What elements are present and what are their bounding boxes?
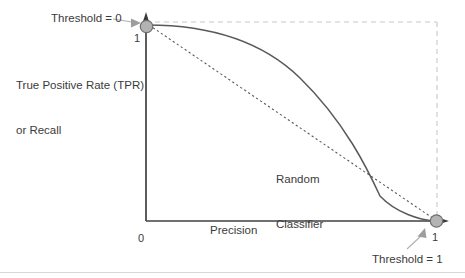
threshold-zero-marker[interactable] (140, 20, 152, 32)
threshold-zero-leader-arrow-icon (131, 19, 141, 28)
bottom-divider (0, 272, 465, 273)
threshold-zero-label: Threshold = 0 (51, 11, 122, 26)
threshold-one-leader-line (407, 236, 421, 249)
y-axis-title: True Positive Rate (TPR) or Recall (16, 48, 144, 168)
y-axis-title-line-2: or Recall (16, 123, 144, 138)
y-axis-title-line-1: True Positive Rate (TPR) (16, 78, 144, 93)
threshold-one-label: Threshold = 1 (372, 252, 443, 267)
figure-canvas: Threshold = 0 True Positive Rate (TPR) o… (0, 0, 465, 278)
random-classifier-label: Random Classifier (276, 142, 323, 262)
random-classifier-line-1: Random (276, 172, 323, 187)
threshold-one-marker[interactable] (430, 215, 442, 227)
x-axis-title: Precision (210, 223, 257, 238)
x-tick-label-origin: 0 (138, 231, 144, 246)
random-classifier-line-2: Classifier (276, 217, 323, 232)
x-tick-label-right: 1 (432, 230, 438, 245)
threshold-one-leader-arrow-icon (418, 228, 427, 238)
y-tick-label-top: 1 (134, 31, 140, 46)
